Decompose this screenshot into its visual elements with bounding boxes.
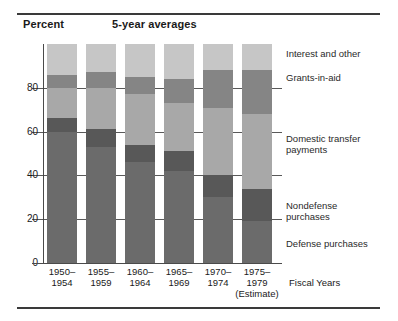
legend-item-domestic-transfer-payments: Domestic transferpayments xyxy=(286,133,398,155)
bar-segment-domestic-transfer-payments[interactable] xyxy=(47,88,77,119)
bar-segment-domestic-transfer-payments[interactable] xyxy=(125,94,155,144)
bar-segment-grants-in-aid[interactable] xyxy=(164,79,194,103)
x-axis-line xyxy=(32,263,282,264)
x-tick-label-start: 1965– xyxy=(166,266,192,277)
bar-1965-1969[interactable] xyxy=(164,44,194,263)
x-tick-label-end: 1979 xyxy=(234,277,280,288)
bottom-rule xyxy=(17,307,380,309)
bar-segment-defense-purchases[interactable] xyxy=(125,162,155,263)
bar-1960-1964[interactable] xyxy=(125,44,155,263)
legend-item-interest-and-other: Interest and other xyxy=(286,48,398,59)
bar-segment-nondefense-purchases[interactable] xyxy=(203,175,233,197)
chart-figure: Percent 5-year averages 020406080 1950–1… xyxy=(0,0,398,321)
bar-segment-defense-purchases[interactable] xyxy=(47,132,77,263)
bar-segment-defense-purchases[interactable] xyxy=(242,221,272,263)
legend-label-line: purchases xyxy=(286,211,398,222)
bar-segment-grants-in-aid[interactable] xyxy=(203,70,233,107)
bar-segment-grants-in-aid[interactable] xyxy=(125,77,155,95)
bar-segment-interest-and-other[interactable] xyxy=(164,44,194,79)
x-tick-label-start: 1975– xyxy=(244,266,270,277)
bar-segment-interest-and-other[interactable] xyxy=(47,44,77,75)
chart-header: Percent 5-year averages xyxy=(0,18,398,35)
y-tick-label: 60 xyxy=(4,126,38,137)
legend-label-line: Defense purchases xyxy=(286,238,398,249)
bar-segment-nondefense-purchases[interactable] xyxy=(47,118,77,131)
bar-1950-1954[interactable] xyxy=(47,44,77,263)
x-tick-label-start: 1970– xyxy=(205,266,231,277)
bar-segment-domestic-transfer-payments[interactable] xyxy=(164,103,194,151)
bar-segment-domestic-transfer-payments[interactable] xyxy=(86,88,116,130)
x-tick-label-note: (Estimate) xyxy=(234,288,280,299)
bar-1955-1959[interactable] xyxy=(86,44,116,263)
bar-segment-nondefense-purchases[interactable] xyxy=(164,151,194,171)
y-tick-label: 80 xyxy=(4,82,38,93)
y-tick-label: 40 xyxy=(4,169,38,180)
bar-segment-nondefense-purchases[interactable] xyxy=(242,189,272,222)
x-tick-label-start: 1950– xyxy=(49,266,75,277)
legend-label-line: Grants-in-aid xyxy=(286,72,398,83)
legend-item-grants-in-aid: Grants-in-aid xyxy=(286,72,398,83)
bar-segment-interest-and-other[interactable] xyxy=(86,44,116,72)
top-rule xyxy=(17,13,380,15)
bar-segment-domestic-transfer-payments[interactable] xyxy=(242,114,272,188)
bar-segment-interest-and-other[interactable] xyxy=(203,44,233,70)
x-axis-title: Fiscal Years xyxy=(289,277,340,288)
legend-item-defense-purchases: Defense purchases xyxy=(286,238,398,249)
legend-label-line: payments xyxy=(286,144,398,155)
chart-subtitle: 5-year averages xyxy=(112,18,197,30)
bar-segment-domestic-transfer-payments[interactable] xyxy=(203,108,233,176)
bar-segment-interest-and-other[interactable] xyxy=(125,44,155,77)
bar-segment-grants-in-aid[interactable] xyxy=(242,70,272,114)
bar-segment-defense-purchases[interactable] xyxy=(164,171,194,263)
bar-segment-interest-and-other[interactable] xyxy=(242,44,272,70)
bar-segment-nondefense-purchases[interactable] xyxy=(86,129,116,147)
bar-1970-1974[interactable] xyxy=(203,44,233,263)
legend-label-line: Nondefense xyxy=(286,200,398,211)
legend-label-line: Interest and other xyxy=(286,48,398,59)
bar-segment-defense-purchases[interactable] xyxy=(203,197,233,263)
bar-segment-grants-in-aid[interactable] xyxy=(86,72,116,87)
chart-legend: Interest and otherGrants-in-aidDomestic … xyxy=(286,40,398,270)
bar-segment-grants-in-aid[interactable] xyxy=(47,75,77,88)
legend-item-nondefense-purchases: Nondefensepurchases xyxy=(286,200,398,222)
bar-1975-1979[interactable] xyxy=(242,44,272,263)
plot-area xyxy=(44,44,281,263)
x-tick-label-start: 1960– xyxy=(127,266,153,277)
bar-segment-defense-purchases[interactable] xyxy=(86,147,116,263)
y-tick-label: 20 xyxy=(4,213,38,224)
x-tick-label-start: 1955– xyxy=(88,266,114,277)
bar-segment-nondefense-purchases[interactable] xyxy=(125,145,155,163)
x-tick-label: 1975–1979(Estimate) xyxy=(234,266,280,299)
legend-label-line: Domestic transfer xyxy=(286,133,398,144)
